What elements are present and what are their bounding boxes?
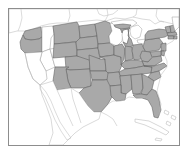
map-figure	[0, 0, 189, 162]
state-new-jersey	[161, 43, 166, 51]
state-connecticut	[168, 36, 174, 39]
lake-huron	[130, 25, 142, 39]
state-iowa	[98, 43, 114, 57]
us-states-map	[9, 9, 179, 145]
state-montana	[53, 22, 80, 44]
state-alabama	[131, 74, 143, 94]
state-arkansas	[107, 72, 121, 86]
state-wyoming	[53, 42, 77, 58]
state-indiana	[125, 46, 133, 61]
map-frame-border	[8, 8, 180, 146]
state-north-dakota	[79, 24, 97, 38]
state-massachusetts	[167, 32, 177, 36]
